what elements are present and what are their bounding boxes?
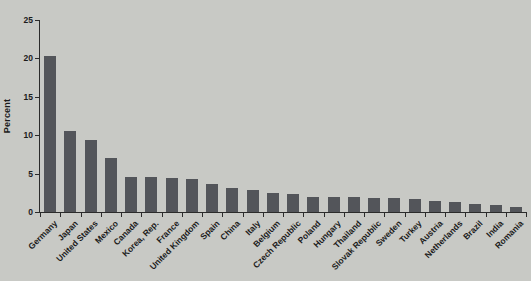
bar-italy <box>247 190 259 212</box>
bar-japan <box>64 131 76 212</box>
x-axis-tick <box>445 213 446 217</box>
y-axis-title: Percent <box>2 81 12 151</box>
x-axis-tick <box>324 213 325 217</box>
x-axis-tick <box>222 213 223 217</box>
y-axis-tick <box>35 135 39 136</box>
bar-canada <box>125 177 137 212</box>
x-axis-tick <box>60 213 61 217</box>
bar-czech-republic <box>287 194 299 212</box>
y-tick-label: 15 <box>7 93 33 102</box>
x-axis-tick <box>141 213 142 217</box>
bar-slovak-republic <box>368 198 380 212</box>
bar-france <box>166 178 178 212</box>
y-axis-tick <box>35 97 39 98</box>
bar-thailand <box>348 197 360 212</box>
y-axis-tick <box>35 174 39 175</box>
x-axis-tick <box>465 213 466 217</box>
y-tick-label: 20 <box>7 54 33 63</box>
bar-poland <box>307 197 319 212</box>
bar-romania <box>510 207 522 212</box>
bar-belgium <box>267 193 279 212</box>
x-axis-label: Brazil <box>462 219 484 241</box>
bar-india <box>490 205 502 212</box>
bar-brazil <box>469 204 481 212</box>
bar-united-kingdom <box>186 179 198 212</box>
x-axis-label: Spain <box>199 219 221 241</box>
bar-turkey <box>409 199 421 212</box>
x-axis-tick <box>425 213 426 217</box>
y-axis-tick <box>35 58 39 59</box>
plot-area: Percent 0510152025 GermanyJapanUnited St… <box>0 0 531 281</box>
x-axis-tick <box>344 213 345 217</box>
bar-austria <box>429 201 441 212</box>
x-axis-tick <box>263 213 264 217</box>
bar-korea-rep- <box>145 177 157 212</box>
bar-chart: Percent 0510152025 GermanyJapanUnited St… <box>0 0 531 281</box>
x-axis-tick <box>384 213 385 217</box>
x-axis-tick <box>303 213 304 217</box>
bar-spain <box>206 184 218 212</box>
bar-mexico <box>105 158 117 212</box>
y-tick-label: 10 <box>7 131 33 140</box>
x-axis-tick <box>486 213 487 217</box>
y-tick-label: 25 <box>7 16 33 25</box>
x-axis-label: China <box>219 219 242 242</box>
bar-hungary <box>328 197 340 212</box>
x-axis-tick <box>162 213 163 217</box>
x-axis-tick <box>283 213 284 217</box>
x-axis-tick <box>202 213 203 217</box>
bar-united-states <box>85 140 97 212</box>
bar-china <box>226 188 238 212</box>
x-axis-tick <box>101 213 102 217</box>
x-axis-tick <box>182 213 183 217</box>
x-axis-tick <box>506 213 507 217</box>
y-tick-label: 0 <box>7 208 33 217</box>
x-axis-tick <box>405 213 406 217</box>
x-axis-tick <box>121 213 122 217</box>
bar-netherlands <box>449 202 461 212</box>
y-axis-tick <box>35 20 39 21</box>
x-axis-tick <box>40 213 41 217</box>
x-axis-tick <box>243 213 244 217</box>
x-axis-tick <box>81 213 82 217</box>
bar-germany <box>44 56 56 212</box>
x-axis-tick <box>364 213 365 217</box>
y-axis-line <box>39 20 40 213</box>
x-axis-tick <box>526 213 527 217</box>
bar-sweden <box>388 198 400 212</box>
y-tick-label: 5 <box>7 170 33 179</box>
